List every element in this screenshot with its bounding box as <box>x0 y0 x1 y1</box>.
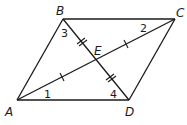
label-c: C <box>176 6 185 20</box>
angle-label-2: 2 <box>140 22 147 35</box>
angle-label-3: 3 <box>61 27 68 40</box>
label-a: A <box>4 105 13 119</box>
label-b: B <box>56 4 64 18</box>
angle-label-4: 4 <box>110 88 117 101</box>
label-d: D <box>125 105 134 119</box>
label-e: E <box>94 44 102 58</box>
angle-label-1: 1 <box>44 88 51 101</box>
geometry-diagram: A B C D E 1 2 3 4 <box>0 0 187 125</box>
diagonal-bd <box>63 19 129 100</box>
